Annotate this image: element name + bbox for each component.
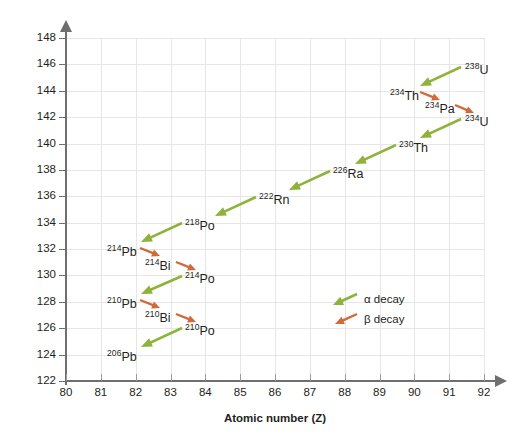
nuclide-mass-number: 210 [107,295,121,305]
gridline-horizontal [66,223,484,224]
x-axis-tick [414,374,415,381]
nuclide-label-rn222: 222Rn [259,192,289,207]
x-axis-tick-label: 91 [434,386,464,398]
x-axis-tick [171,374,172,381]
x-axis-tick-label: 86 [260,386,290,398]
x-axis-tick [66,374,67,381]
gridline-vertical [136,38,137,381]
y-axis-tick-label: 134 [16,216,56,228]
y-axis-tick [59,64,67,65]
legend-row-beta: β decay [326,309,436,329]
y-axis-tick-label: 122 [16,374,56,386]
y-axis-tick [59,117,67,118]
x-axis-tick [240,374,241,381]
y-axis-tick-label: 144 [16,84,56,96]
nuclide-mass-number: 210 [145,309,159,319]
x-axis-tick-label: 82 [121,386,151,398]
x-axis-tick-label: 89 [365,386,395,398]
nuclide-element-symbol: Th [413,141,428,155]
y-axis-title-text: Number of neutrons (n) [2,0,14,28]
nuclide-element-symbol: Pb [121,350,136,364]
nuclide-mass-number: 214 [185,270,199,280]
gridline-vertical [310,38,311,381]
y-axis-tick-label: 126 [16,321,56,333]
y-axis-line [65,30,67,385]
nuclide-label-po214: 214Po [185,271,215,286]
nuclide-element-symbol: Bi [159,259,170,273]
nuclide-element-symbol: Bi [159,311,170,325]
gridline-vertical [101,38,102,381]
y-axis-tick-label: 132 [16,242,56,254]
y-axis-tick-label: 138 [16,163,56,175]
nuclide-element-symbol: U [479,63,488,77]
x-axis-tick [205,374,206,381]
nuclide-mass-number: 234 [390,87,404,97]
nuclide-element-symbol: Ra [347,167,363,181]
x-axis-tick-label: 84 [190,386,220,398]
nuclide-label-po218: 218Po [185,218,215,233]
gridline-horizontal [66,275,484,276]
y-axis-tick [59,249,67,250]
nuclide-label-pb210: 210Pb [107,296,137,311]
x-axis-line [65,380,497,382]
y-axis-tick-label: 140 [16,137,56,149]
x-axis-tick [275,374,276,381]
y-axis-tick-label: 128 [16,295,56,307]
x-axis-tick-label: 90 [399,386,429,398]
y-axis-tick [59,275,67,276]
x-axis-tick-label: 83 [156,386,186,398]
y-axis-tick-label: 130 [16,268,56,280]
gridline-vertical [449,38,450,381]
nuclide-element-symbol: Pb [121,297,136,311]
gridline-horizontal [66,170,484,171]
x-axis-tick-label: 85 [225,386,255,398]
x-axis-tick-label: 92 [469,386,499,398]
y-axis-tick [59,381,67,382]
gridline-vertical [484,38,485,381]
decay-chain-chart: Number of neutrons (n) Atomic number (Z)… [0,0,518,435]
nuclide-mass-number: 238 [465,61,479,71]
x-axis-tick [484,374,485,381]
nuclide-label-pb214: 214Pb [107,244,137,259]
legend: α decay β decay [326,289,436,335]
nuclide-mass-number: 226 [333,165,347,175]
nuclide-label-th230: 230Th [399,140,428,155]
x-axis-tick-label: 88 [330,386,360,398]
nuclide-label-pa234: 234Pa [425,101,455,116]
nuclide-mass-number: 206 [107,348,121,358]
nuclide-mass-number: 210 [185,322,199,332]
x-axis-tick [101,374,102,381]
nuclide-label-ra226: 226Ra [333,166,363,181]
nuclide-label-u238: 238U [465,62,489,77]
gridline-vertical [240,38,241,381]
nuclide-mass-number: 214 [145,257,159,267]
nuclide-mass-number: 218 [185,217,199,227]
x-axis-tick-label: 87 [295,386,325,398]
legend-row-alpha: α decay [326,289,436,309]
y-axis-tick-label: 148 [16,31,56,43]
nuclide-label-bi214: 214Bi [145,258,171,273]
gridline-vertical [171,38,172,381]
legend-label-alpha: α decay [364,293,405,305]
y-axis-arrow-icon [60,20,72,32]
y-axis-tick [59,196,67,197]
x-axis-tick [380,374,381,381]
x-axis-tick [310,374,311,381]
nuclide-element-symbol: Po [199,324,214,338]
nuclide-element-symbol: Po [199,219,214,233]
nuclide-mass-number: 222 [259,191,273,201]
nuclide-label-pb206: 206Pb [107,349,137,364]
x-axis-tick [449,374,450,381]
y-axis-tick-label: 146 [16,57,56,69]
nuclide-mass-number: 234 [425,100,439,110]
y-axis-tick [59,170,67,171]
nuclide-label-po210: 210Po [185,323,215,338]
nuclide-label-th234: 234Th [390,88,419,103]
nuclide-element-symbol: U [479,115,488,129]
y-axis-tick [59,328,67,329]
legend-label-beta: β decay [364,313,405,325]
x-axis-tick-label: 81 [86,386,116,398]
nuclide-element-symbol: Pa [439,102,454,116]
gridline-horizontal [66,91,484,92]
y-axis-tick [59,355,67,356]
